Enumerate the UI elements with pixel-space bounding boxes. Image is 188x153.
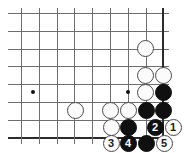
go-board-diagram: 21345 bbox=[0, 0, 188, 153]
black-stone-a bbox=[155, 84, 172, 101]
grid-line-vertical bbox=[39, 8, 40, 144]
white-stone-move-1: 1 bbox=[165, 119, 182, 136]
white-stone-a bbox=[137, 40, 154, 57]
grid-line-vertical bbox=[74, 8, 75, 144]
black-stone-c bbox=[155, 102, 172, 119]
star-point-left bbox=[31, 90, 35, 94]
grid-line-vertical bbox=[92, 8, 93, 144]
stone-move-number: 4 bbox=[125, 137, 131, 148]
white-stone-c bbox=[155, 67, 172, 84]
stone-move-number: 1 bbox=[170, 121, 176, 132]
black-stone-move-2: 2 bbox=[147, 119, 164, 136]
stone-move-number: 5 bbox=[161, 137, 167, 148]
black-stone-move-4: 4 bbox=[120, 135, 137, 152]
white-stone-move-5: 5 bbox=[156, 135, 173, 152]
black-stone-b bbox=[138, 102, 155, 119]
stone-move-number: 2 bbox=[152, 121, 158, 132]
grid-line-vertical bbox=[57, 8, 58, 144]
black-stone-e bbox=[138, 135, 155, 152]
stone-move-number: 3 bbox=[108, 137, 114, 148]
white-stone-h bbox=[103, 119, 120, 136]
white-stone-d bbox=[137, 84, 154, 101]
star-point-right bbox=[126, 90, 130, 94]
white-stone-move-3: 3 bbox=[103, 135, 120, 152]
black-stone-d bbox=[120, 119, 137, 136]
white-stone-g bbox=[120, 102, 137, 119]
white-stone-f bbox=[102, 102, 119, 119]
white-stone-b bbox=[137, 67, 154, 84]
white-stone-e bbox=[67, 102, 84, 119]
grid-line-vertical bbox=[21, 8, 22, 144]
